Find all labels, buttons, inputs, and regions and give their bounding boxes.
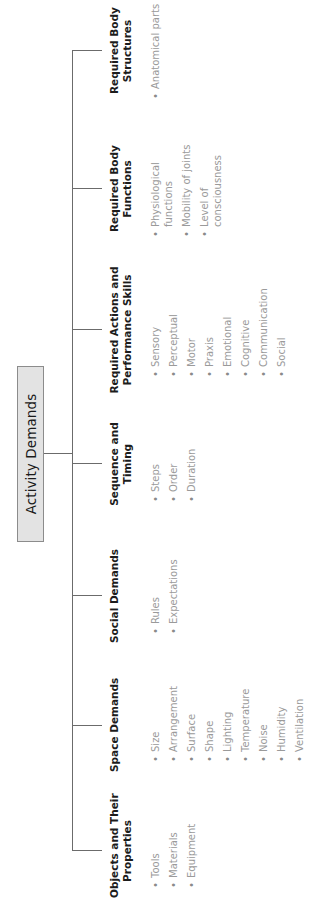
bullet-icon: • — [167, 371, 180, 377]
item-label: Materials — [168, 832, 179, 878]
item-list: •Steps •Order •Duration — [149, 449, 203, 502]
list-item: •Cognitive — [239, 288, 252, 377]
list-item: •Emotional — [221, 288, 234, 377]
list-item: •Tools — [149, 824, 162, 888]
bullet-icon: • — [149, 496, 162, 502]
list-item: •Surface — [185, 686, 198, 762]
item-label: Anatomical parts — [150, 4, 161, 89]
bullet-icon: • — [149, 628, 162, 634]
bullet-icon: • — [221, 371, 234, 377]
branch-line-sequence — [72, 463, 102, 464]
item-label: Expectations — [168, 559, 179, 624]
heading-line: Required Body — [108, 8, 121, 94]
bullet-icon: • — [203, 756, 216, 762]
list-item: •Steps — [149, 449, 162, 502]
list-item: •Order — [167, 449, 180, 502]
bullet-icon: • — [149, 231, 162, 237]
item-label: Tools — [150, 853, 161, 878]
heading-line: Timing — [121, 422, 134, 506]
item-list: •Sensory •Perceptual •Motor •Praxis •Emo… — [149, 288, 293, 377]
bullet-icon: • — [167, 756, 180, 762]
item-label: Humidity — [276, 707, 287, 752]
branch-line-body-structures — [72, 50, 102, 51]
heading-line: Space Demands — [108, 680, 121, 772]
heading-line: Required Actions and — [108, 263, 121, 397]
item-label: Steps — [150, 464, 161, 492]
item-label-continued: consciousness — [212, 155, 223, 227]
bullet-icon: • — [257, 371, 270, 377]
bullet-icon: • — [180, 231, 193, 237]
list-item: •Physiologicalfunctions — [149, 145, 175, 237]
list-item: •Rules — [149, 559, 162, 634]
list-item: •Size — [149, 686, 162, 762]
item-label: Social — [276, 337, 287, 367]
heading-line: Sequence and — [108, 422, 121, 506]
bullet-icon: • — [167, 628, 180, 634]
bullet-icon: • — [149, 882, 162, 888]
item-label: Perceptual — [168, 314, 179, 367]
item-label: Duration — [186, 449, 197, 492]
heading-line: Structures — [121, 8, 134, 94]
branch-line-space — [72, 725, 102, 726]
list-item: •Materials — [167, 824, 180, 888]
item-label-continued: functions — [163, 181, 174, 227]
branch-line-body-functions — [72, 188, 102, 189]
category-heading: Required Body Functions — [108, 146, 134, 232]
bullet-icon: • — [275, 756, 288, 762]
item-list: •Tools •Materials •Equipment — [149, 824, 203, 888]
list-item: •Motor — [185, 288, 198, 377]
bullet-icon: • — [221, 756, 234, 762]
item-label: Lighting — [222, 712, 233, 752]
bullet-icon: • — [203, 371, 216, 377]
root-connector-line — [44, 453, 72, 454]
branch-line-actions — [72, 329, 102, 330]
heading-line: Social Demands — [108, 546, 121, 646]
item-label: Arrangement — [168, 686, 179, 752]
list-item: •Expectations — [167, 559, 180, 634]
item-label: Mobility of joints — [181, 145, 192, 227]
category-heading: Sequence and Timing — [108, 422, 134, 506]
list-item: •Humidity — [275, 686, 288, 762]
item-label: Communication — [258, 288, 269, 367]
list-item: •Arrangement — [167, 686, 180, 762]
trunk-line — [72, 50, 73, 851]
heading-line: Performance Skills — [121, 263, 134, 397]
item-list: •Rules •Expectations — [149, 559, 185, 634]
heading-line: Required Body — [108, 146, 121, 232]
bullet-icon: • — [167, 496, 180, 502]
list-item: •Duration — [185, 449, 198, 502]
item-label: Level of — [199, 188, 210, 227]
heading-line: Functions — [121, 146, 134, 232]
root-node-label: Activity Demands — [23, 394, 39, 515]
bullet-icon: • — [185, 882, 198, 888]
item-label: Order — [168, 464, 179, 492]
category-heading: Required Body Structures — [108, 8, 134, 94]
branch-line-objects — [72, 850, 102, 851]
category-heading: Social Demands — [108, 546, 121, 646]
category-heading: Objects and Their Properties — [108, 804, 134, 898]
list-item: •Temperature — [239, 686, 252, 762]
bullet-icon: • — [149, 756, 162, 762]
bullet-icon: • — [239, 371, 252, 377]
item-label: Praxis — [204, 337, 215, 367]
list-item: •Lighting — [221, 686, 234, 762]
item-label: Size — [150, 731, 161, 752]
heading-line: Properties — [121, 804, 134, 898]
list-item: •Shape — [203, 686, 216, 762]
list-item: •Perceptual — [167, 288, 180, 377]
item-label: Ventilation — [294, 699, 305, 752]
list-item: •Communication — [257, 288, 270, 377]
bullet-icon: • — [185, 371, 198, 377]
item-label: Motor — [186, 338, 197, 367]
category-heading: Required Actions and Performance Skills — [108, 263, 134, 397]
activity-demands-tree-diagram: Activity Demands Objects and Their Prope… — [0, 0, 321, 912]
item-label: Rules — [150, 597, 161, 624]
list-item: •Social — [275, 288, 288, 377]
item-label: Shape — [204, 721, 215, 752]
item-label: Cognitive — [240, 320, 251, 367]
list-item: •Mobility of joints — [180, 145, 193, 237]
item-label: Equipment — [186, 824, 197, 878]
list-item: •Ventilation — [293, 686, 306, 762]
bullet-icon: • — [275, 371, 288, 377]
list-item: •Praxis — [203, 288, 216, 377]
